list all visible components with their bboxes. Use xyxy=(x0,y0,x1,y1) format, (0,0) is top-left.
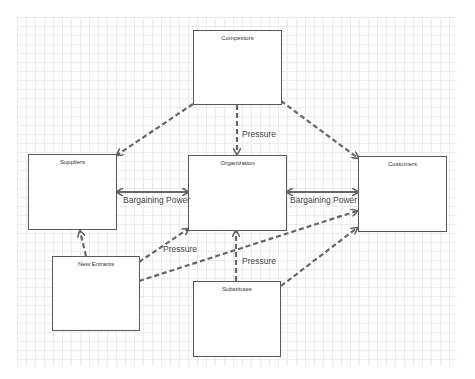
node-substitutes[interactable]: Substitutes xyxy=(193,281,281,357)
node-substitutes-label: Substitutes xyxy=(194,286,280,292)
node-customers[interactable]: Customers xyxy=(358,156,447,232)
node-organization[interactable]: Organization xyxy=(188,155,287,231)
arrow-competitors-to-customers[interactable] xyxy=(281,101,358,158)
edge-label-suppliers-bargaining: Bargaining Power xyxy=(123,195,190,205)
node-new-entrants-label: New Entrants xyxy=(53,261,139,267)
edge-label-new-entrants-pressure: Pressure xyxy=(163,244,197,254)
node-customers-label: Customers xyxy=(359,161,446,167)
node-new-entrants[interactable]: New Entrants xyxy=(52,256,140,331)
node-organization-label: Organization xyxy=(189,160,286,166)
edge-label-substitutes-pressure: Pressure xyxy=(242,256,276,266)
node-suppliers-label: Suppliers xyxy=(29,159,116,165)
node-suppliers[interactable]: Suppliers xyxy=(28,154,117,230)
edge-label-customers-bargaining: Bargaining Power xyxy=(290,195,357,205)
arrow-new-entrants-to-suppliers[interactable] xyxy=(80,231,86,256)
node-competitors-label: Competitors xyxy=(194,35,281,41)
edge-label-competitors-pressure: Pressure xyxy=(242,129,276,139)
node-competitors[interactable]: Competitors xyxy=(193,30,282,105)
arrow-substitutes-to-customers[interactable] xyxy=(281,228,357,286)
arrow-competitors-to-suppliers[interactable] xyxy=(117,104,193,155)
